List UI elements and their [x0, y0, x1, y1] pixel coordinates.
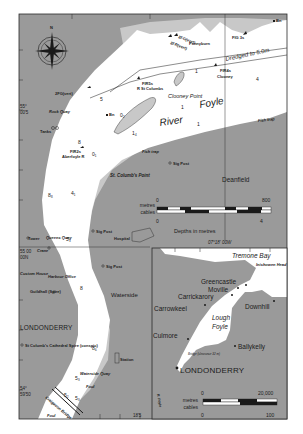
label-st-columbs-point: St. Columb's Point [110, 173, 150, 178]
label-waterside: Waterside [111, 292, 138, 298]
svg-text:8: 8 [78, 139, 81, 145]
svg-text:07°18' 00W: 07°18' 00W [208, 240, 232, 245]
inset-label-culmore: Culmore [153, 332, 178, 339]
svg-text:0: 0 [201, 390, 204, 396]
svg-text:55 00: 55 00 [20, 249, 32, 254]
label-clooney-point: Clooney Point [168, 93, 203, 99]
svg-text:0₁: 0₁ [92, 151, 97, 157]
label-foul: Foul [86, 384, 95, 389]
inset-label-inishowen-head: Inishowen Head [256, 262, 287, 267]
svg-text:18'5: 18'5 [133, 413, 142, 418]
svg-text:metres: metres [140, 202, 156, 208]
inset-label-foyle: Foyle [212, 323, 228, 331]
beacon-label: Bn [109, 112, 115, 117]
svg-text:8: 8 [80, 285, 83, 291]
svg-text:20,000: 20,000 [258, 390, 274, 396]
svg-text:cables: cables [184, 404, 199, 410]
label-tower: Tower [28, 236, 40, 241]
svg-text:1: 1 [197, 121, 200, 127]
light-label: Clooney [217, 74, 234, 79]
label-sig-post: Sig Post [96, 229, 113, 234]
nautical-chart: N River Foyle Clooney Point St. Columb's… [0, 0, 303, 434]
svg-text:00'5: 00'5 [20, 110, 29, 115]
label-waterside-quay: Waterside Quay [80, 371, 111, 376]
label-foul: Foul [47, 413, 56, 418]
inset-label-carrowkeel: Carrowkeel [154, 305, 187, 312]
svg-text:0: 0 [156, 197, 159, 203]
svg-text:4: 4 [260, 218, 263, 224]
svg-text:0₂: 0₂ [120, 112, 125, 118]
svg-text:cables: cables [141, 209, 156, 215]
label-sig-post: Sig Post [106, 264, 123, 269]
svg-text:0: 0 [201, 412, 204, 418]
label-sig-post: Sig Post [173, 161, 190, 166]
label-station: Station [120, 357, 134, 362]
inset-map: Tremone Bay Inishowen Head Greencastle M… [152, 248, 287, 419]
inset-label-lough: Lough [212, 314, 230, 322]
svg-text:00N: 00N [20, 255, 28, 260]
svg-text:59'50: 59'50 [20, 392, 31, 397]
svg-text:5: 5 [100, 96, 103, 102]
svg-text:4₁: 4₁ [71, 190, 76, 196]
inset-label-londonderry: LONDONDERRY [180, 366, 245, 375]
light-label: Aberfoyle R [62, 154, 85, 159]
svg-text:55°: 55° [20, 104, 27, 109]
svg-text:1₄: 1₄ [132, 130, 137, 136]
label-hospital: Hospital [114, 236, 130, 241]
compass-north-label: N [50, 25, 53, 30]
label-custom-house: Custom House [20, 271, 49, 276]
label-st-columbs-cathedral: St Columb's Cathedral Spire (conspic) [25, 343, 98, 348]
svg-text:5₃: 5₃ [75, 395, 80, 401]
beacon-label: Bn [276, 18, 282, 23]
svg-text:5₃: 5₃ [66, 236, 71, 242]
label-tanks: Tanks [40, 129, 52, 134]
svg-text:8₆: 8₆ [92, 345, 97, 351]
svg-text:800: 800 [262, 197, 271, 203]
svg-text:0: 0 [156, 218, 159, 224]
label-rock-quay: Rock Quay [49, 109, 71, 114]
inset-label-bridge: Bridge (clearance 32 m) [188, 352, 220, 356]
svg-text:5₃: 5₃ [75, 375, 80, 381]
svg-text:100: 100 [266, 412, 275, 418]
svg-text:54°: 54° [20, 386, 27, 391]
inset-label-tremone-bay: Tremone Bay [232, 252, 271, 260]
svg-text:5₂: 5₂ [64, 392, 69, 398]
inset-label-greencastle: Greencastle [201, 278, 236, 285]
svg-text:metres: metres [183, 397, 199, 403]
inset-label-carrickarory: Carrickarory [178, 293, 214, 301]
label-fish-trap: Fish trap [142, 149, 159, 154]
svg-text:4: 4 [256, 76, 259, 82]
label-harbour-office: Harbour Office [48, 274, 77, 279]
svg-text:1: 1 [195, 68, 198, 74]
label-deanfield: Deanfield [222, 176, 250, 183]
light-label: R St Columbs [137, 86, 164, 91]
inset-label-downhill: Downhill [245, 303, 270, 310]
inset-label-moville: Moville [208, 286, 229, 293]
label-guildhall: Guildhall (Spire) [30, 289, 62, 294]
light-label: 2FG(vert) [55, 91, 73, 96]
label-londonderry: LONDONDERRY [20, 324, 73, 331]
svg-text:1: 1 [181, 104, 184, 110]
svg-text:8₈: 8₈ [48, 192, 53, 198]
inset-label-ballykelly: Ballykelly [238, 343, 266, 351]
light-label: FIG 3s [232, 35, 245, 40]
svg-text:Depths in metres: Depths in metres [174, 228, 216, 234]
label-crane: Crane [37, 248, 49, 253]
light-label: FIR4s [220, 68, 232, 73]
